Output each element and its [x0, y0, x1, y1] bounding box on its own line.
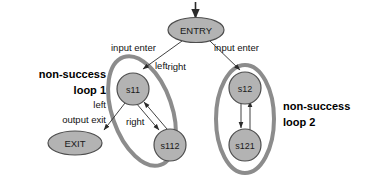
node-s12-label: s12 — [238, 84, 253, 94]
diagram-canvas: ENTRY s11 s112 EXIT s12 s121 input enter — [0, 0, 384, 181]
edge-label-exit-left: left — [93, 99, 106, 110]
node-s112-label: s112 — [161, 141, 180, 151]
node-s121[interactable]: s121 — [229, 129, 261, 161]
cluster-loop2-label-line2: loop 2 — [283, 116, 315, 128]
node-s112[interactable]: s112 — [154, 129, 186, 161]
node-entry[interactable]: ENTRY — [168, 18, 224, 43]
edge-label-entry-left: input enter — [111, 42, 156, 53]
node-s121-label: s121 — [235, 141, 255, 151]
edge-label-s11-s112: right — [126, 116, 145, 127]
edge-s112-s11 — [144, 102, 167, 129]
node-exit[interactable]: EXIT — [48, 131, 102, 155]
node-entry-label: ENTRY — [180, 25, 213, 36]
node-s11-label: s11 — [126, 85, 140, 95]
cluster-loop2-label-line1: non-success — [283, 100, 350, 112]
edge-label-output-exit: output exit — [62, 114, 106, 125]
cluster-loop1-label-line2: loop 1 — [74, 84, 106, 96]
node-s12[interactable]: s12 — [229, 72, 261, 104]
node-s11[interactable]: s11 — [117, 73, 149, 105]
node-exit-label: EXIT — [64, 138, 85, 149]
cluster-loop1-label-line1: non-success — [39, 68, 106, 80]
edge-label-entry-right: input enter — [214, 42, 259, 53]
edge-label-right-branch: right — [168, 61, 187, 72]
edge-label-left-branch: left — [155, 60, 168, 71]
